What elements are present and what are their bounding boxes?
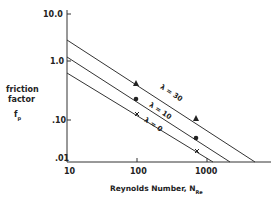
series-lambda-30 bbox=[67, 40, 255, 162]
x-label: Reynolds Number, NRe bbox=[110, 184, 203, 197]
x-tick-10: 10 bbox=[64, 167, 75, 176]
y-tick-01: .10 bbox=[52, 116, 66, 125]
y-tick-001: .01 bbox=[55, 154, 69, 163]
y-label-line2: factor bbox=[8, 95, 35, 104]
x-tick-100: 100 bbox=[130, 167, 147, 176]
series-lambda-0 bbox=[67, 73, 213, 162]
y-label-line1: friction bbox=[6, 85, 39, 94]
y-label-symbol: fp bbox=[14, 110, 21, 123]
x-tick-1000: 1000 bbox=[195, 167, 217, 176]
y-tick-1: 1.0 bbox=[50, 57, 64, 66]
y-tick-10: 10.0 bbox=[43, 10, 63, 19]
